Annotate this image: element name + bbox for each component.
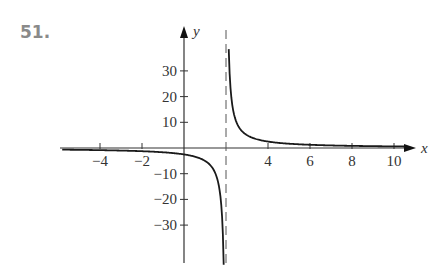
x-tick-label: 4 — [264, 153, 272, 169]
y-tick-label: 10 — [162, 114, 177, 130]
x-tick-label: −4 — [92, 153, 108, 169]
x-tick-label: 8 — [348, 153, 356, 169]
y-tick-label: −30 — [154, 217, 177, 233]
function-graph: xy−4−246810302010−10−20−30 — [0, 0, 443, 271]
y-tick-label: −20 — [154, 191, 177, 207]
y-tick-label: 20 — [162, 89, 177, 105]
x-axis-arrow-icon — [404, 144, 416, 152]
y-axis-label: y — [191, 23, 200, 39]
x-axis-label: x — [420, 140, 428, 156]
y-tick-label: −10 — [154, 166, 177, 182]
x-tick-label: 6 — [306, 153, 314, 169]
y-tick-label: 30 — [162, 63, 177, 79]
x-tick-label: −2 — [134, 153, 150, 169]
y-axis-arrow-icon — [180, 26, 188, 38]
x-tick-label: 10 — [387, 153, 402, 169]
curve-right-branch — [229, 49, 405, 146]
